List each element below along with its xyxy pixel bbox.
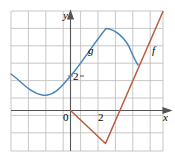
coordinate-plot [0,0,175,161]
x-tick-label-2: 2 [98,112,104,123]
y-axis-arrowhead [68,11,74,19]
curve-f [71,12,164,144]
curve-g-label: g [88,45,94,56]
curve-f-label: f [152,45,155,56]
origin-tick-label: 0 [63,112,69,123]
y-axis-label: y [63,10,68,21]
y-tick-label-2: 2 [73,71,79,82]
curve-g [11,29,138,96]
graph-figure: y x g f 0 2 2 [0,0,175,161]
x-axis-label: x [163,112,168,123]
grid-lines [11,11,163,151]
